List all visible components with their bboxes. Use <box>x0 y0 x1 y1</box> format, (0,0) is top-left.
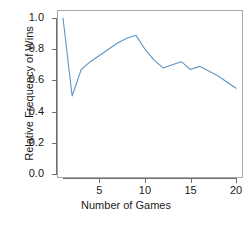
y-axis-tick <box>52 49 57 50</box>
x-axis-tick-label: 10 <box>125 185 165 196</box>
y-axis: 0.00.20.40.60.81.0 <box>46 10 57 178</box>
data-series-line <box>63 18 236 96</box>
y-axis-tick <box>52 143 57 144</box>
y-axis-tick <box>52 80 57 81</box>
y-axis-tick <box>52 174 57 175</box>
x-axis: 5101520 <box>57 178 243 190</box>
x-axis-tick <box>236 178 237 183</box>
y-axis-line <box>56 18 57 174</box>
y-axis-tick <box>52 18 57 19</box>
x-axis-tick <box>99 178 100 183</box>
x-axis-tick-label: 5 <box>79 185 119 196</box>
y-axis-tick <box>52 112 57 113</box>
chart-figure: 0.00.20.40.60.81.0 5101520 Number of Gam… <box>0 0 252 226</box>
x-axis-tick <box>191 178 192 183</box>
x-axis-line <box>63 178 237 179</box>
x-axis-title: Number of Games <box>0 199 252 212</box>
plot-area <box>57 10 243 178</box>
x-axis-tick-label: 20 <box>216 185 252 196</box>
x-axis-tick <box>145 178 146 183</box>
y-axis-title: Relative Frequency of Wins <box>23 9 36 179</box>
x-axis-tick-label: 15 <box>171 185 211 196</box>
